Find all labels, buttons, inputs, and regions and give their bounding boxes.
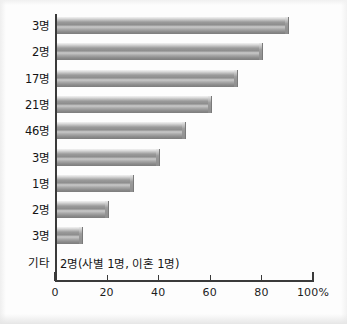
category-label: 기타 <box>0 254 50 272</box>
bar-end-cap <box>79 227 82 244</box>
chart-screenshot: 3명2명17명21명46명3명1명2명3명기타2명(사별 1명, 이혼 1명) … <box>0 0 347 324</box>
bar-end-cap <box>130 175 133 192</box>
chart-row: 3명 <box>0 226 347 252</box>
chart-row: 1명 <box>0 174 347 200</box>
bar <box>57 201 109 218</box>
bar <box>57 175 134 192</box>
chart-row: 21명 <box>0 95 347 121</box>
bar-end-cap <box>105 201 108 218</box>
bar <box>57 17 289 34</box>
category-label: 21명 <box>0 96 50 114</box>
chart-row: 2명 <box>0 42 347 68</box>
x-axis-tick <box>107 275 108 281</box>
bar-end-cap <box>259 43 262 60</box>
chart-row: 3명 <box>0 16 347 42</box>
bar <box>57 43 263 60</box>
x-axis-tick-label: 40 <box>151 286 165 299</box>
category-label: 3명 <box>0 149 50 167</box>
chart-row: 기타2명(사별 1명, 이혼 1명) <box>0 253 347 279</box>
category-label: 2명 <box>0 43 50 61</box>
x-axis-tick <box>261 275 262 281</box>
x-axis-tick-label: 0 <box>51 286 58 299</box>
bar <box>57 149 160 166</box>
x-axis-tick-label: 100% <box>297 286 329 299</box>
chart-row: 17명 <box>0 69 347 95</box>
bar-end-cap <box>208 96 211 113</box>
category-label: 1명 <box>0 175 50 193</box>
x-axis-tick <box>210 275 211 281</box>
bar <box>57 70 238 87</box>
bar-end-cap <box>234 70 237 87</box>
row-annotation: 2명(사별 1명, 이혼 1명) <box>60 255 179 271</box>
x-axis-tick-label: 20 <box>99 286 113 299</box>
x-axis-tick-label: 80 <box>254 286 268 299</box>
x-axis-tick <box>312 272 314 281</box>
bar-end-cap <box>182 122 185 139</box>
bar-end-cap <box>156 149 159 166</box>
category-label: 3명 <box>0 17 50 35</box>
x-axis-line <box>55 280 314 282</box>
x-axis-tick-label: 60 <box>203 286 217 299</box>
category-label: 17명 <box>0 70 50 88</box>
x-axis-tick <box>158 275 159 281</box>
x-axis-tick <box>54 272 56 281</box>
bar <box>57 96 212 113</box>
chart-row: 3명 <box>0 148 347 174</box>
bar <box>57 122 186 139</box>
category-label: 46명 <box>0 122 50 140</box>
bar <box>57 227 83 244</box>
category-label: 3명 <box>0 227 50 245</box>
bar-end-cap <box>285 17 288 34</box>
category-label: 2명 <box>0 201 50 219</box>
bar-chart: 3명2명17명21명46명3명1명2명3명기타2명(사별 1명, 이혼 1명) … <box>0 0 347 324</box>
chart-row: 46명 <box>0 121 347 147</box>
chart-row: 2명 <box>0 200 347 226</box>
